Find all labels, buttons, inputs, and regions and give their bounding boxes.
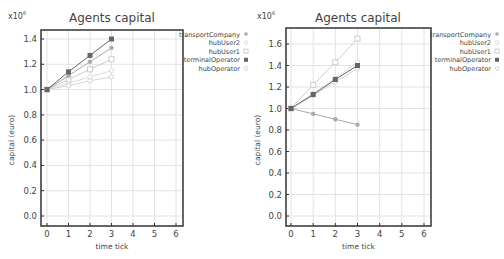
- marker-circle-open: [109, 75, 113, 79]
- y-tick-label: 1.0: [23, 85, 37, 95]
- chart-left: Agents capitalx10601234560.00.20.40.60.8…: [0, 0, 252, 259]
- marker-square-open: [333, 60, 338, 65]
- marker-square-filled: [355, 63, 360, 68]
- x-tick-label: 5: [152, 229, 157, 239]
- y-tick-label: 0.0: [268, 211, 282, 221]
- chart-left-svg: Agents capitalx10601234560.00.20.40.60.8…: [0, 0, 252, 259]
- y-axis-label: capital (euro): [7, 115, 16, 165]
- marker-circle-open: [109, 68, 113, 72]
- x-tick-label: 2: [87, 229, 92, 239]
- marker-square-open: [355, 36, 360, 41]
- x-tick-label: 1: [66, 229, 71, 239]
- y-tick-label: 0.4: [268, 168, 282, 178]
- y-tick-label: 0.0: [23, 211, 37, 221]
- legend-marker: [244, 58, 248, 62]
- x-tick-label: 3: [355, 229, 360, 239]
- y-multiplier-exponent: 6: [23, 10, 26, 16]
- marker-circle-filled: [311, 112, 315, 116]
- legend-marker: [495, 32, 499, 36]
- y-tick-label: 1.2: [268, 82, 282, 92]
- marker-circle-filled: [355, 122, 359, 126]
- y-multiplier-exponent: 6: [272, 10, 275, 16]
- legend-marker: [244, 67, 248, 71]
- legend-label-hubUser2: hubUser2: [460, 39, 491, 47]
- marker-square-filled: [109, 37, 114, 42]
- marker-circle-open: [88, 79, 92, 83]
- chart-title: Agents capital: [69, 11, 155, 25]
- x-axis-label: time tick: [342, 242, 375, 251]
- marker-circle-filled: [109, 46, 113, 50]
- legend-label-terminalOperator: terminalOperator: [184, 56, 241, 64]
- y-tick-label: 1.4: [268, 61, 282, 71]
- y-tick-label: 0.8: [23, 110, 37, 120]
- marker-square-filled: [66, 69, 71, 74]
- chart-right: Agents capitalx10601234560.00.20.40.60.8…: [252, 0, 504, 259]
- legend-label-terminalOperator: terminalOperator: [435, 56, 492, 64]
- marker-square-filled: [88, 53, 93, 58]
- y-tick-label: 0.2: [23, 186, 37, 196]
- marker-circle-filled: [88, 60, 92, 64]
- y-tick-label: 0.6: [268, 147, 282, 157]
- x-tick-label: 0: [44, 229, 49, 239]
- y-tick-label: 1.0: [268, 104, 282, 114]
- x-tick-label: 6: [173, 229, 178, 239]
- legend-marker: [244, 41, 248, 45]
- marker-square-filled: [311, 92, 316, 97]
- x-tick-label: 1: [310, 229, 315, 239]
- marker-circle-filled: [333, 117, 337, 121]
- legend-label-hubOperator: hubOperator: [450, 65, 492, 73]
- series-line-transportCompany: [291, 109, 358, 125]
- legend-label-hubUser1: hubUser1: [460, 48, 491, 56]
- y-multiplier-label: x106: [8, 10, 26, 21]
- marker-square-open: [88, 67, 93, 72]
- legend-label-transportCompany: transportCompany: [179, 31, 240, 39]
- marker-circle-open: [66, 84, 70, 88]
- legend-marker: [244, 32, 248, 36]
- legend-marker: [495, 67, 499, 71]
- marker-square-filled: [45, 87, 50, 92]
- marker-square-open: [311, 82, 316, 87]
- series-line-hubUser2: [47, 71, 112, 90]
- marker-square-open: [109, 57, 114, 62]
- legend-label-hubOperator: hubOperator: [199, 65, 241, 73]
- plot-frame: [286, 28, 431, 226]
- y-tick-label: 0.8: [268, 125, 282, 135]
- legend-marker: [495, 41, 499, 45]
- y-tick-label: 0.4: [23, 160, 37, 170]
- x-tick-label: 5: [399, 229, 404, 239]
- x-tick-label: 0: [288, 229, 293, 239]
- y-tick-label: 0.6: [23, 135, 37, 145]
- x-tick-label: 4: [130, 229, 135, 239]
- x-tick-label: 6: [421, 229, 426, 239]
- x-tick-label: 3: [109, 229, 114, 239]
- legend-marker: [495, 49, 499, 53]
- marker-square-filled: [289, 106, 294, 111]
- x-tick-label: 4: [377, 229, 382, 239]
- series-line-hubUser1: [291, 39, 358, 109]
- y-tick-label: 1.2: [23, 59, 37, 69]
- y-tick-label: 1.6: [268, 39, 282, 49]
- y-tick-label: 1.4: [23, 34, 37, 44]
- legend-label-hubUser2: hubUser2: [209, 39, 240, 47]
- legend-label-transportCompany: transportCompany: [430, 31, 491, 39]
- chart-right-svg: Agents capitalx10601234560.00.20.40.60.8…: [252, 0, 504, 259]
- chart-title: Agents capital: [315, 11, 401, 25]
- x-tick-label: 2: [333, 229, 338, 239]
- marker-square-filled: [333, 77, 338, 82]
- y-tick-label: 0.2: [268, 190, 282, 200]
- y-multiplier-label: x106: [257, 10, 275, 21]
- series-line-hubUser2: [291, 62, 358, 108]
- x-axis-label: time tick: [96, 242, 129, 251]
- legend-marker: [244, 49, 248, 53]
- legend-marker: [495, 58, 499, 62]
- legend-label-hubUser1: hubUser1: [209, 48, 240, 56]
- y-axis-label: capital (euro): [253, 115, 262, 165]
